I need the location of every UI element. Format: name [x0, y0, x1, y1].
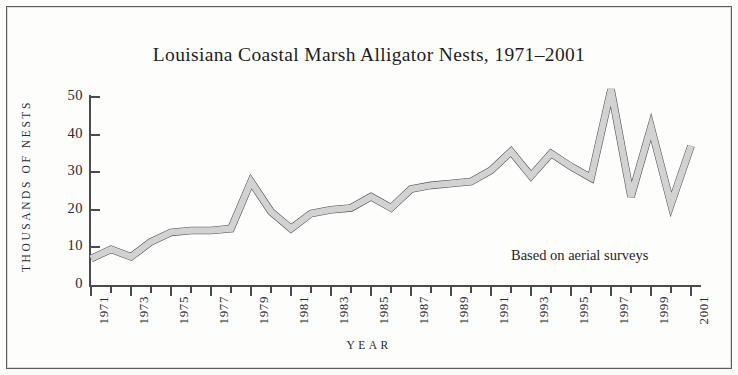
data-series-line: [0, 0, 738, 375]
chart-figure: Louisiana Coastal Marsh Alligator Nests,…: [0, 0, 738, 375]
chart-annotation: Based on aerial surveys: [511, 247, 648, 264]
